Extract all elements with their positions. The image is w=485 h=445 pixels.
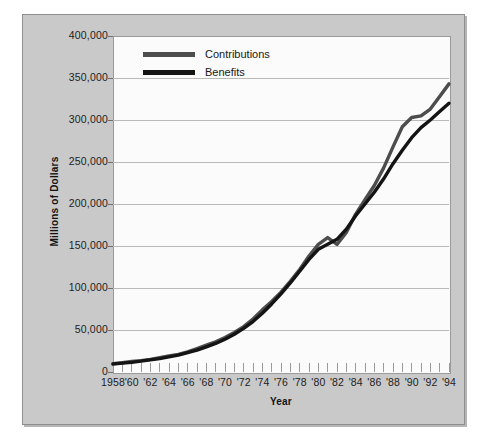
data-series — [113, 84, 449, 364]
x-tick-label: '78 — [293, 376, 307, 388]
x-tick-label: '88 — [386, 376, 400, 388]
x-tick-label: 1958 — [101, 376, 125, 388]
x-axis-ticks — [113, 363, 449, 372]
x-axis-tick-labels: 1958'60'62'64'66'68'70'72'74'76'78'80'82… — [0, 376, 485, 392]
series-line-contributions — [113, 84, 449, 364]
y-tick-label: 300,000 — [22, 113, 108, 125]
chart-legend: ContributionsBenefits — [143, 46, 318, 82]
x-tick-label: '90 — [405, 376, 419, 388]
x-tick-label: '80 — [311, 376, 325, 388]
plot-svg — [113, 36, 449, 372]
chart-figure: 400,000350,000300,000250,000200,000150,0… — [0, 0, 485, 445]
x-tick-label: '84 — [349, 376, 363, 388]
x-tick-label: '94 — [442, 376, 456, 388]
legend-label: Benefits — [205, 66, 245, 78]
x-tick-label: '68 — [199, 376, 213, 388]
x-tick-label: '74 — [255, 376, 269, 388]
x-tick-label: '76 — [274, 376, 288, 388]
x-tick-label: '64 — [162, 376, 176, 388]
y-tick-label: 350,000 — [22, 71, 108, 83]
x-tick-label: '60 — [125, 376, 139, 388]
x-tick-label: '86 — [367, 376, 381, 388]
x-tick-label: '92 — [423, 376, 437, 388]
x-tick-label: '72 — [237, 376, 251, 388]
legend-swatch-icon — [143, 52, 195, 57]
y-tick-label: 250,000 — [22, 155, 108, 167]
y-tick-label: 200,000 — [22, 197, 108, 209]
x-axis-title: Year — [113, 396, 449, 407]
x-tick-label: '62 — [143, 376, 157, 388]
y-tick-label: 150,000 — [22, 239, 108, 251]
series-line-benefits — [113, 103, 449, 364]
legend-swatch-icon — [143, 70, 195, 75]
legend-item: Contributions — [143, 46, 318, 62]
x-tick-label: '70 — [218, 376, 232, 388]
legend-label: Contributions — [205, 48, 270, 60]
y-tick-label: 50,000 — [22, 323, 108, 335]
y-axis-title: Millions of Dollars — [49, 142, 60, 262]
x-tick-label: '82 — [330, 376, 344, 388]
x-tick-label: '66 — [181, 376, 195, 388]
y-tick-label: 100,000 — [22, 281, 108, 293]
y-tick-label: 400,000 — [22, 29, 108, 41]
legend-item: Benefits — [143, 64, 318, 80]
